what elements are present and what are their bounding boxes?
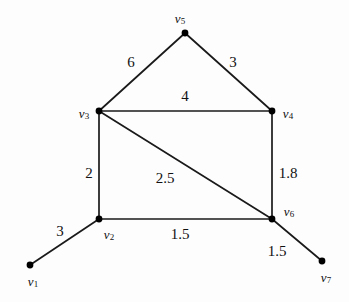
graph-edge-v5-v4	[185, 33, 272, 111]
nodes-layer	[27, 30, 326, 269]
edges-layer	[30, 33, 322, 265]
graph-canvas	[0, 0, 349, 302]
graph-node-v2	[96, 216, 103, 223]
graph-node-v7	[319, 258, 326, 265]
graph-edge-v3-v6	[99, 111, 272, 219]
graph-node-v6	[269, 216, 276, 223]
graph-node-v5	[182, 30, 189, 37]
graph-edge-v6-v7	[272, 219, 322, 261]
graph-figure: 63422.51.81.531.5v1v2v3v4v5v6v7	[0, 0, 349, 302]
graph-node-v4	[269, 108, 276, 115]
graph-node-v3	[96, 108, 103, 115]
graph-edge-v1-v2	[30, 219, 99, 265]
graph-edge-v3-v5	[99, 33, 185, 111]
graph-node-v1	[27, 262, 34, 269]
